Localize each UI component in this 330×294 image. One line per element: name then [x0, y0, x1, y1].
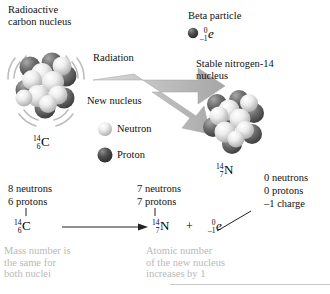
nitrogen-element-symbol-eq: N	[160, 218, 169, 233]
carbon-atomic-number-eq: 6	[14, 227, 22, 235]
electron-charge-number-eq: –1	[208, 227, 216, 235]
electron-element-symbol-eq: e	[216, 218, 222, 233]
carbon-element-symbol-top: C	[41, 134, 50, 149]
electron-neutrons-label: 0 neutrons	[264, 172, 308, 184]
electron-symbol-equation: 0–1e	[208, 219, 222, 235]
right-protons-label: 7 protons	[137, 196, 176, 208]
plus-sign: +	[186, 220, 193, 232]
proton-legend-label: Proton	[117, 149, 145, 161]
carbon-symbol-top: 146C	[33, 135, 50, 151]
right-neutrons-label: 7 neutrons	[137, 183, 181, 195]
radioactive-nucleus-label: Radioactive carbon nucleus	[8, 4, 71, 27]
left-neutrons-label: 8 neutrons	[8, 183, 52, 195]
atomic-number-caption: Atomic number of the new nucleus increas…	[146, 245, 225, 280]
beta-charge-number: –1	[200, 35, 208, 43]
proton-legend-sphere	[98, 148, 113, 163]
carbon-element-symbol-eq: C	[22, 218, 31, 233]
nitrogen-symbol-equation: 147N	[152, 219, 169, 235]
neutron-legend-label: Neutron	[117, 123, 151, 135]
carbon-atomic-number-top: 6	[33, 143, 41, 151]
electron-leader-line	[217, 211, 251, 231]
carbon-14-nucleus-cluster	[16, 53, 77, 119]
beta-particle-sphere	[188, 28, 198, 38]
neutron-legend-sphere	[98, 122, 112, 136]
nitrogen-symbol-top: 147N	[216, 163, 233, 179]
new-nucleus-label: New nucleus	[87, 95, 142, 107]
radiation-label: Radiation	[93, 52, 134, 64]
nitrogen-atomic-number-top: 7	[216, 171, 224, 179]
left-protons-label: 6 protons	[8, 196, 47, 208]
beta-element-symbol: e	[208, 26, 214, 41]
reaction-arrow	[62, 223, 148, 230]
stable-nucleus-label: Stable nitrogen-14 nucleus	[196, 58, 274, 81]
figure-canvas: Radioactive carbon nucleus Radiation New…	[0, 0, 330, 294]
nitrogen-element-symbol-top: N	[224, 162, 233, 177]
mass-number-caption: Mass number is the same for both nuclei	[4, 245, 71, 280]
nitrogen-14-nucleus-cluster	[203, 90, 264, 154]
beta-particle-label: Beta particle	[188, 10, 241, 22]
electron-protons-label: 0 protons	[264, 185, 303, 197]
electron-charge-label: –1 charge	[264, 198, 305, 210]
carbon-symbol-equation: 146C	[14, 219, 31, 235]
nitrogen-atomic-number-eq: 7	[152, 227, 160, 235]
bottom-rule	[170, 284, 330, 285]
beta-particle-symbol: 0–1e	[200, 27, 214, 43]
